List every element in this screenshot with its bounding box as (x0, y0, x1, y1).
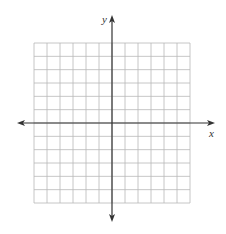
y-axis-label: y (102, 14, 107, 25)
coordinate-plane: y x (0, 0, 226, 234)
grid-graphic (0, 0, 226, 234)
x-axis-label: x (209, 128, 214, 139)
